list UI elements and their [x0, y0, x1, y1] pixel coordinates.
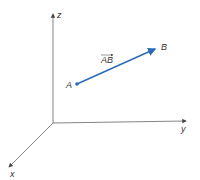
x-axis [9, 123, 53, 167]
y-axis [53, 121, 186, 123]
vector-diagram: z y x A B AB [0, 0, 200, 180]
vector-ab-arrow [77, 49, 155, 84]
point-b-label: B [161, 42, 167, 52]
x-axis-label: x [9, 169, 15, 179]
point-a-label: A [65, 80, 72, 90]
vector-ab-label: AB [100, 55, 113, 65]
y-axis-label: y [180, 124, 186, 134]
z-axis-label: z [56, 10, 62, 20]
point-a-dot [75, 82, 79, 86]
